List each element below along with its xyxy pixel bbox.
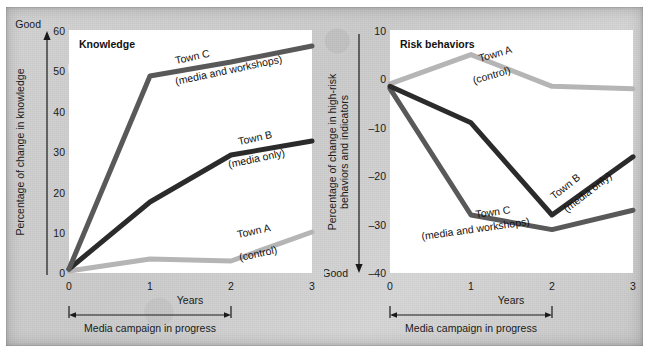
knowledge-ytick-50: 50 — [53, 65, 65, 77]
risk-bracket-label: Media campaign in progress — [405, 322, 537, 334]
risk-title: Risk behaviors — [400, 38, 475, 50]
knowledge-y-axis-title: Percentage of change in knowledge — [14, 68, 26, 235]
knowledge-bracket-label: Media campaign in progress — [84, 322, 216, 334]
risk-xtick-1: 1 — [468, 280, 474, 292]
knowledge-ytick-60: 60 — [53, 25, 65, 37]
knowledge-ytick-20: 20 — [53, 187, 65, 199]
knowledge-xtick-0: 0 — [66, 280, 72, 292]
risk-y-axis-title-line2: behaviors and indicators — [338, 95, 350, 209]
risk-x-axis-title: Years — [498, 294, 524, 306]
knowledge-ytick-0: 0 — [59, 267, 65, 279]
risk-xtick-2: 2 — [549, 280, 555, 292]
risk-ytick-neg20: –20 — [368, 170, 386, 182]
knowledge-ytick-30: 30 — [53, 146, 65, 158]
knowledge-bracket-arrow-left — [69, 312, 76, 318]
figure-container: Good Percentage of change in knowledge 0… — [0, 0, 649, 353]
risk-ytick-neg30: –30 — [368, 219, 386, 231]
risk-ytick-neg10: –10 — [368, 122, 386, 134]
risk-ytick-neg40: –40 — [368, 267, 386, 279]
knowledge-xtick-3: 3 — [309, 280, 315, 292]
risk-good-label: Good — [324, 267, 348, 279]
risk-bracket-arrow-left — [390, 312, 397, 318]
risk-good-arrow-head — [355, 264, 362, 273]
risk-xtick-0: 0 — [387, 280, 393, 292]
risk-xtick-3: 3 — [630, 280, 636, 292]
knowledge-good-arrow-head — [43, 31, 50, 40]
knowledge-chart: Good Percentage of change in knowledge 0… — [0, 0, 325, 353]
knowledge-xtick-2: 2 — [228, 280, 234, 292]
knowledge-bracket-arrow-right — [224, 312, 231, 318]
knowledge-x-axis-title: Years — [177, 294, 203, 306]
risk-ytick-10: 10 — [374, 25, 386, 37]
risk-bracket-arrow-right — [545, 312, 552, 318]
knowledge-ytick-10: 10 — [53, 227, 65, 239]
risk-ytick-0: 0 — [380, 73, 386, 85]
knowledge-ytick-40: 40 — [53, 106, 65, 118]
knowledge-xtick-1: 1 — [147, 280, 153, 292]
risk-y-axis-title-line1: Percentage of change in high-risk — [326, 73, 338, 230]
knowledge-title: Knowledge — [79, 38, 135, 50]
risk-behaviors-chart: Good Percentage of change in high-risk b… — [324, 0, 649, 353]
knowledge-good-label: Good — [15, 18, 41, 30]
